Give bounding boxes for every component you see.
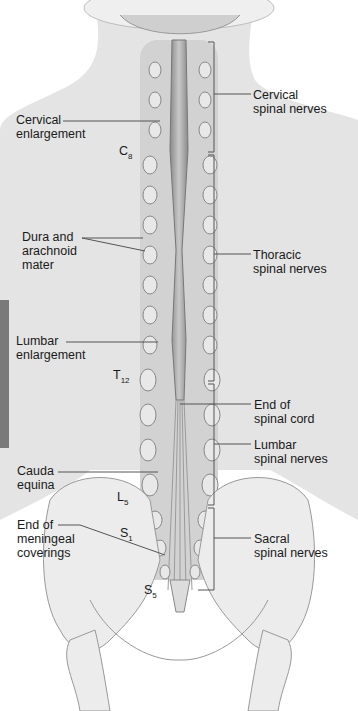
label-sacral-spinal-nerves: Sacral spinal nerves: [254, 532, 328, 560]
label-line: enlargement: [16, 348, 86, 362]
marker-subscript: 1: [128, 534, 132, 543]
vertebra-marker-s1: S1: [120, 526, 133, 543]
label-line: spinal cord: [254, 412, 314, 426]
label-line: spinal nerves: [254, 452, 328, 466]
label-line: Cervical: [253, 88, 327, 102]
marker-subscript: 8: [128, 152, 132, 161]
marker-letter: L: [117, 490, 124, 504]
label-line: Dura and: [22, 230, 77, 244]
label-cervical-spinal-nerves: Cervical spinal nerves: [253, 88, 327, 116]
label-lumbar-spinal-nerves: Lumbar spinal nerves: [254, 438, 328, 466]
marker-subscript: 5: [124, 498, 128, 507]
label-cervical-enlargement: Cervical enlargement: [16, 113, 86, 141]
label-line: End of: [17, 518, 75, 532]
vertebra-marker-s5: S5: [144, 583, 157, 600]
label-line: mater: [22, 258, 77, 272]
label-end-meningeal: End of meningeal coverings: [17, 518, 75, 560]
spinal-cord-diagram: Cervical enlargement Dura and arachnoid …: [0, 0, 358, 711]
label-line: spinal nerves: [253, 262, 327, 276]
label-line: spinal nerves: [253, 102, 327, 116]
vertebra-marker-c8: C8: [119, 144, 132, 161]
label-thoracic-spinal-nerves: Thoracic spinal nerves: [253, 248, 327, 276]
page-tab-marker: [0, 300, 9, 448]
label-line: spinal nerves: [254, 546, 328, 560]
label-lumbar-enlargement: Lumbar enlargement: [16, 334, 86, 362]
marker-letter: T: [113, 368, 121, 382]
label-line: arachnoid: [22, 244, 77, 258]
label-line: Lumbar: [16, 334, 86, 348]
label-line: meningeal: [17, 532, 75, 546]
label-line: Cervical: [16, 113, 86, 127]
marker-letter: C: [119, 144, 128, 158]
label-dura-arachnoid: Dura and arachnoid mater: [22, 230, 77, 272]
label-cauda-equina: Cauda equina: [17, 464, 55, 492]
marker-subscript: 5: [152, 591, 156, 600]
label-line: Sacral: [254, 532, 328, 546]
vertebra-marker-t12: T12: [113, 368, 130, 385]
label-end-spinal-cord: End of spinal cord: [254, 398, 314, 426]
label-line: End of: [254, 398, 314, 412]
label-line: enlargement: [16, 127, 86, 141]
marker-subscript: 12: [121, 376, 130, 385]
label-line: Cauda: [17, 464, 55, 478]
label-line: Thoracic: [253, 248, 327, 262]
label-line: coverings: [17, 546, 75, 560]
label-line: equina: [17, 478, 55, 492]
label-line: Lumbar: [254, 438, 328, 452]
vertebra-marker-l5: L5: [117, 490, 128, 507]
